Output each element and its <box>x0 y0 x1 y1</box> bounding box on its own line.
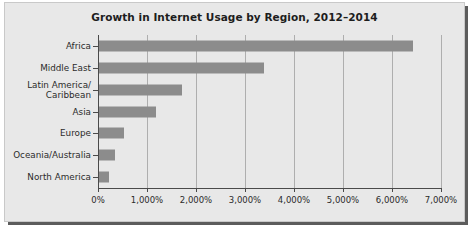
plot-area: 0%1,000%2,000%3,000%4,000%5,000%6,000%7,… <box>5 3 465 222</box>
x-axis-tick <box>392 188 393 192</box>
x-axis-tick <box>294 188 295 192</box>
x-axis-line <box>98 188 442 189</box>
x-axis-tick <box>98 188 99 192</box>
x-axis-tick-label: 7,000% <box>425 195 457 205</box>
x-axis-tick <box>441 188 442 192</box>
x-axis-tick-label: 1,000% <box>131 195 163 205</box>
gridline <box>392 35 393 188</box>
bar <box>99 106 156 117</box>
gridline <box>294 35 295 188</box>
gridline <box>196 35 197 188</box>
y-axis-tick <box>93 177 98 178</box>
x-axis-tick <box>343 188 344 192</box>
y-axis-tick <box>93 112 98 113</box>
bar <box>99 150 115 161</box>
y-axis-tick <box>93 46 98 47</box>
x-axis-tick-label: 2,000% <box>180 195 212 205</box>
gridline <box>343 35 344 188</box>
x-axis-tick-label: 5,000% <box>327 195 359 205</box>
bar <box>99 40 413 51</box>
gridline <box>245 35 246 188</box>
x-axis-tick-label: 3,000% <box>229 195 261 205</box>
chart-figure: Growth in Internet Usage by Region, 2012… <box>0 0 470 227</box>
x-axis-tick-label: 0% <box>91 195 105 205</box>
x-axis-tick <box>147 188 148 192</box>
category-label: Africa <box>66 41 91 51</box>
y-axis-tick <box>93 133 98 134</box>
y-axis-tick <box>93 155 98 156</box>
gridline <box>441 35 442 188</box>
x-axis-tick-label: 4,000% <box>278 195 310 205</box>
x-axis-tick <box>196 188 197 192</box>
y-axis-tick <box>93 90 98 91</box>
category-label: North America <box>27 172 91 182</box>
y-axis-tick <box>93 68 98 69</box>
bar <box>99 62 264 73</box>
category-label: Asia <box>73 107 91 117</box>
bar <box>99 84 182 95</box>
category-label: Latin America/ Caribbean <box>27 80 91 100</box>
category-label: Europe <box>60 128 91 138</box>
bar <box>99 172 109 183</box>
x-axis-tick-label: 6,000% <box>376 195 408 205</box>
x-axis-tick <box>245 188 246 192</box>
bar <box>99 128 124 139</box>
chart-panel: Growth in Internet Usage by Region, 2012… <box>4 2 465 222</box>
category-label: Oceania/Australia <box>13 150 91 160</box>
category-label: Middle East <box>40 63 91 73</box>
